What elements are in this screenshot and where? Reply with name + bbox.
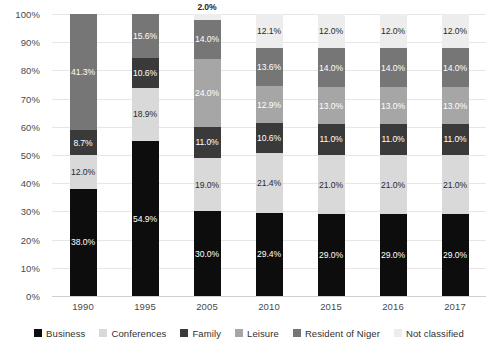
legend-item[interactable]: Business: [34, 328, 85, 339]
bar-segment-value-label: 13.0%: [380, 102, 407, 111]
legend-item[interactable]: Leisure: [235, 328, 279, 339]
legend-item[interactable]: Conferences: [99, 328, 166, 339]
y-axis-tick-label: 30%: [21, 206, 40, 217]
bar-segment-value-label: 12.0%: [380, 27, 407, 36]
bar-segment-value-label: 29.0%: [318, 251, 345, 260]
bar-segment-value-label: 24.0%: [194, 89, 221, 98]
y-axis-tick-label: 40%: [21, 178, 40, 189]
bar-segment-value-label: 38.0%: [70, 238, 97, 247]
bar-segment-value-label: 8.7%: [70, 139, 97, 148]
legend-swatch-icon: [394, 329, 402, 337]
x-axis-tick-label: 2017: [444, 301, 466, 312]
bar-segment-value-label: 14.0%: [380, 64, 407, 73]
bar-stack[interactable]: 29.0%21.0%11.0%13.0%14.0%12.0%: [442, 14, 469, 296]
bar-segment-value-label: 21.4%: [256, 179, 283, 188]
plot-area: 38.0%12.0%8.7%41.3%54.9%18.9%10.6%15.6%3…: [52, 14, 486, 296]
bar-segment-value-label: 12.0%: [442, 27, 469, 36]
bar-stack[interactable]: 29.0%21.0%11.0%13.0%14.0%12.0%: [318, 14, 345, 296]
bar-stack[interactable]: 38.0%12.0%8.7%41.3%: [70, 14, 97, 296]
legend-label: Leisure: [247, 328, 279, 339]
y-axis-tick-label: 80%: [21, 65, 40, 76]
y-axis-tick-label: 10%: [21, 262, 40, 273]
bar-segment-value-label: 13.0%: [318, 102, 345, 111]
bar-segment-value-label: 15.6%: [132, 32, 159, 41]
y-axis-tick-label: 100%: [15, 9, 40, 20]
x-axis: 1990199520052010201520162017: [52, 298, 486, 318]
legend-swatch-icon: [99, 329, 107, 337]
bar-segment-value-label: 11.0%: [380, 135, 407, 144]
gridline: [52, 296, 486, 297]
x-axis-tick-label: 1990: [72, 301, 94, 312]
legend-swatch-icon: [293, 329, 301, 337]
bar-stack[interactable]: 29.0%21.0%11.0%13.0%14.0%12.0%: [380, 14, 407, 296]
bar-segment-value-label: 30.0%: [194, 250, 221, 259]
bar-segment-value-label: 12.9%: [256, 101, 283, 110]
bar-segment-value-label: 14.0%: [194, 35, 221, 44]
bar-segment-value-label: 2.0%: [194, 3, 221, 12]
bar-segment[interactable]: [194, 14, 221, 20]
x-axis-tick-label: 2016: [382, 301, 404, 312]
y-axis-tick-label: 0%: [26, 291, 40, 302]
bar-segment-value-label: 12.0%: [318, 27, 345, 36]
bar-segment-value-label: 12.0%: [70, 168, 97, 177]
y-axis: 0%10%20%30%40%50%60%70%80%90%100%: [0, 14, 46, 296]
bar-segment-value-label: 13.0%: [442, 102, 469, 111]
bar-segment-value-label: 14.0%: [442, 64, 469, 73]
legend-label: Resident of Niger: [305, 328, 380, 339]
bar-segment-value-label: 13.6%: [256, 63, 283, 72]
bars-layer: 38.0%12.0%8.7%41.3%54.9%18.9%10.6%15.6%3…: [52, 14, 486, 296]
bar-segment-value-label: 21.0%: [442, 181, 469, 190]
legend-label: Family: [192, 328, 221, 339]
bar-segment-value-label: 21.0%: [318, 181, 345, 190]
y-axis-tick-label: 20%: [21, 234, 40, 245]
legend-item[interactable]: Resident of Niger: [293, 328, 380, 339]
bar-segment-value-label: 21.0%: [380, 181, 407, 190]
legend-label: Not classified: [406, 328, 464, 339]
bar-stack[interactable]: 30.0%19.0%11.0%24.0%14.0%2.0%: [194, 14, 221, 296]
legend-label: Business: [46, 328, 85, 339]
y-axis-tick-label: 70%: [21, 93, 40, 104]
bar-segment-value-label: 11.0%: [318, 135, 345, 144]
bar-segment-value-label: 11.0%: [442, 135, 469, 144]
y-axis-tick-label: 60%: [21, 121, 40, 132]
bar-segment-value-label: 10.6%: [256, 134, 283, 143]
bar-stack[interactable]: 54.9%18.9%10.6%15.6%: [132, 14, 159, 296]
x-axis-tick-label: 2010: [258, 301, 280, 312]
x-axis-tick-label: 2005: [196, 301, 218, 312]
stacked-bar-chart: 0%10%20%30%40%50%60%70%80%90%100% 38.0%1…: [0, 0, 498, 349]
chart-legend: BusinessConferencesFamilyLeisureResident…: [0, 324, 498, 342]
bar-segment-value-label: 29.4%: [256, 250, 283, 259]
y-axis-tick-label: 50%: [21, 150, 40, 161]
legend-swatch-icon: [235, 329, 243, 337]
legend-item[interactable]: Not classified: [394, 328, 464, 339]
bar-segment-value-label: 11.0%: [194, 138, 221, 147]
bar-segment-value-label: 54.9%: [132, 215, 159, 224]
bar-stack[interactable]: 29.4%21.4%10.6%12.9%13.6%12.1%: [256, 14, 283, 296]
bar-segment-value-label: 29.0%: [442, 251, 469, 260]
x-axis-tick-label: 2015: [320, 301, 342, 312]
bar-segment-value-label: 18.9%: [132, 110, 159, 119]
bar-segment-value-label: 19.0%: [194, 181, 221, 190]
bar-segment-value-label: 29.0%: [380, 251, 407, 260]
bar-segment-value-label: 14.0%: [318, 64, 345, 73]
legend-swatch-icon: [180, 329, 188, 337]
legend-label: Conferences: [111, 328, 166, 339]
legend-swatch-icon: [34, 329, 42, 337]
bar-segment-value-label: 41.3%: [70, 68, 97, 77]
x-axis-tick-label: 1995: [134, 301, 156, 312]
legend-item[interactable]: Family: [180, 328, 221, 339]
bar-segment-value-label: 10.6%: [132, 69, 159, 78]
bar-segment-value-label: 12.1%: [256, 27, 283, 36]
y-axis-tick-label: 90%: [21, 37, 40, 48]
